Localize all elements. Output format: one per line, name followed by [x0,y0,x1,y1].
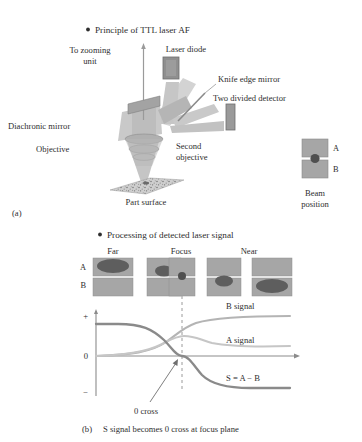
optical-axis-arrowhead [141,43,146,49]
label-to-zooming-unit-line1: To zooming [69,45,111,55]
detector-tile-focus [169,258,195,296]
curve-label-a-signal: A signal [226,335,255,345]
graph-ytick-plus: + [83,311,88,321]
panel-b-id: (b) [82,424,92,434]
two-divided-detector-body [226,104,235,130]
zero-cross-label: 0 cross [134,406,159,416]
label-second-objective-line2: objective [176,152,208,162]
panel-b-title: Processing of detected laser signal [107,230,234,240]
beam-position-label-b: B [333,165,339,174]
zero-cross-arrow-shaft [150,363,176,402]
label-two-divided-detector: Two divided detector [213,93,286,103]
graph-ytick-zero: 0 [84,351,88,361]
curve-label-s-signal: S = A − B [226,373,260,383]
beam-position-spot [310,154,319,163]
spot-header-far: Far [107,246,119,256]
spot-header-near: Near [241,246,258,256]
beam-position-caption-line2: position [301,199,329,209]
detector-row-label-b: B [80,281,86,290]
zero-cross-arrowhead [173,359,178,366]
panel-a-diagram: Principle of TTL laser AF [0,0,362,230]
detector-tile-focus-seg-b [169,278,195,296]
panel-a-title: Principle of TTL laser AF [95,25,190,35]
focused-spot-on-surface [143,182,149,185]
laser-diode-face [166,60,176,76]
figure-page: Principle of TTL laser AF [0,0,362,442]
spot-header-focus: Focus [171,246,192,256]
detector-tile-mid-near [207,258,241,296]
graph-y-axis-arrowhead [94,309,98,314]
label-part-surface: Part surface [126,197,167,207]
curve-label-b-signal: B signal [226,301,255,311]
label-to-zooming-unit-line2: unit [83,56,97,66]
label-second-objective-line1: Second [176,141,202,151]
panel-b-diagram: Processing of detected laser signal Far … [0,230,362,442]
label-objective: Objective [36,144,70,154]
detector-tile-focus-spot [178,272,186,280]
graph-x-axis-arrowhead [294,354,300,359]
label-laser-diode: Laser diode [166,44,207,54]
beam-position-caption-line1: Beam [305,188,325,198]
panel-b-caption: S signal becomes 0 cross at focus plane [103,424,239,434]
part-surface-slab [110,178,184,194]
graph-ytick-minus: − [83,387,88,397]
detector-tile-far [93,258,133,296]
objective-barrel [125,139,163,166]
detector-tile-far-seg-b [93,278,133,296]
panel-a-id: (a) [12,208,22,218]
detector-tile-mid-near-spot [215,276,233,287]
detector-tile-far-spot [97,259,129,273]
detector-row-label-a: A [80,263,86,272]
label-diachronic-mirror: Diachronic mirror [8,121,70,131]
curve-b-signal [96,316,290,356]
detector-tile-near-spot [256,279,288,293]
label-knife-edge-mirror: Knife edge mirror [218,74,280,84]
detector-tile-near-seg-a [252,258,292,276]
curve-a-signal [96,336,290,356]
detector-tile-near [252,258,292,296]
beam-position-label-a: A [333,144,339,153]
panel-b-title-bullet [98,233,102,237]
detector-tile-mid-near-seg-a [207,258,241,276]
panel-a-title-bullet [86,28,90,32]
knife-edge-mirror-leader [205,84,216,93]
